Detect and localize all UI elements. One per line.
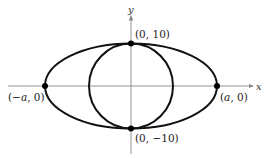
point-left [42,83,48,89]
diagram-canvas: x y (0, 10) (0, −10) (−a, 0) (a, 0) [0,0,267,158]
ellipse-circle-diagram: x y (0, 10) (0, −10) (−a, 0) (a, 0) [0,0,267,158]
point-top [128,41,134,47]
x-axis-label: x [256,81,262,92]
label-bottom-point: (0, −10) [135,132,179,144]
point-right [214,83,220,89]
label-top-point: (0, 10) [135,28,170,40]
point-bottom [128,126,134,132]
label-right-point: (a, 0) [220,91,248,103]
label-left-point: (−a, 0) [8,91,45,103]
y-axis-label: y [127,4,134,15]
